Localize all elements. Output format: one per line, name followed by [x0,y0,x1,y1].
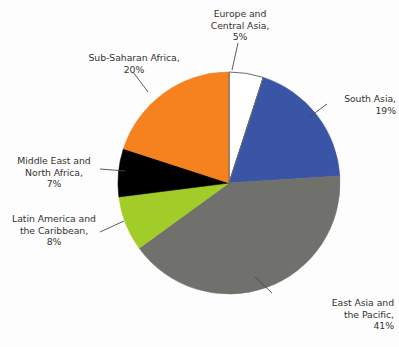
slice-label-europe-and-central-asia: Europe and Central Asia, 5% [186,8,294,43]
slice-label-sub-saharan-africa: Sub-Saharan Africa, 20% [70,52,198,75]
slice-label-south-asia: South Asia, 19% [330,93,396,116]
pie-chart-figure: Europe and Central Asia, 5% South Asia, … [0,0,399,347]
slice-label-east-asia-and-the-pacific: East Asia and the Pacific, 41% [264,297,394,332]
leader-line-europe [232,43,238,70]
slice-label-middle-east-and-north-africa: Middle East and North Africa, 7% [2,155,106,190]
slice-label-latin-america-and-the-caribbean: Latin America and the Caribbean, 8% [2,213,106,248]
